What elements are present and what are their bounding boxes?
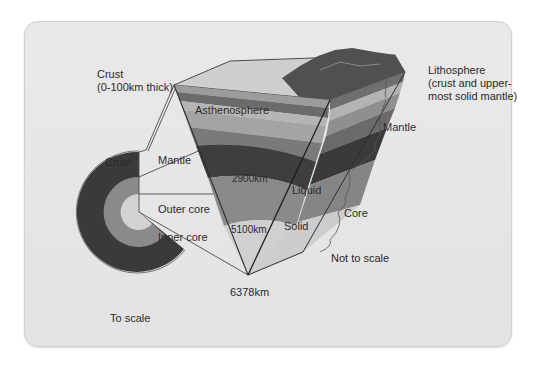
earth-layers-diagram <box>0 0 537 367</box>
label-asthenosphere: Asthenosphere <box>195 104 269 117</box>
label-crust-left: Crust <box>105 156 131 169</box>
label-to-scale: To scale <box>110 312 150 325</box>
label-liquid: Liquid <box>292 184 321 197</box>
earth-wedge <box>174 48 405 275</box>
label-depth-6378: 6378km <box>230 286 269 299</box>
label-inner-core: Inner core <box>158 231 208 244</box>
label-crust-top: Crust <box>97 68 123 81</box>
label-core: Core <box>344 207 368 220</box>
label-lithosphere-desc-2: most solid mantle) <box>428 90 517 103</box>
label-crust-thickness: (0-100km thick) <box>97 81 173 94</box>
label-mantle-right: Mantle <box>383 121 416 134</box>
label-depth-2900: 2900km <box>232 172 268 185</box>
label-lithosphere-desc-1: (crust and upper- <box>428 77 512 90</box>
label-outer-core: Outer core <box>158 203 210 216</box>
label-depth-5100: 5100km <box>231 223 267 236</box>
label-mantle-left: Mantle <box>158 154 191 167</box>
label-lithosphere: Lithosphere <box>428 64 486 77</box>
label-not-to-scale: Not to scale <box>331 252 389 265</box>
label-solid: Solid <box>284 220 308 233</box>
